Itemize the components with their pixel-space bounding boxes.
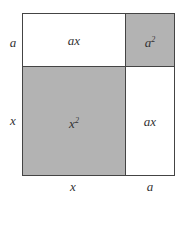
side-label-bottom-x: x <box>68 180 78 193</box>
side-label-bottom-a: a <box>145 180 155 193</box>
side-label-left-x: x <box>8 114 18 127</box>
side-label-left-a: a <box>8 36 18 49</box>
region-label-ax-top: ax <box>62 34 86 47</box>
region-label-ax-right: ax <box>138 115 162 128</box>
region-label-a-squared: a2 <box>138 33 162 49</box>
region-label-x-squared: x2 <box>62 114 86 130</box>
